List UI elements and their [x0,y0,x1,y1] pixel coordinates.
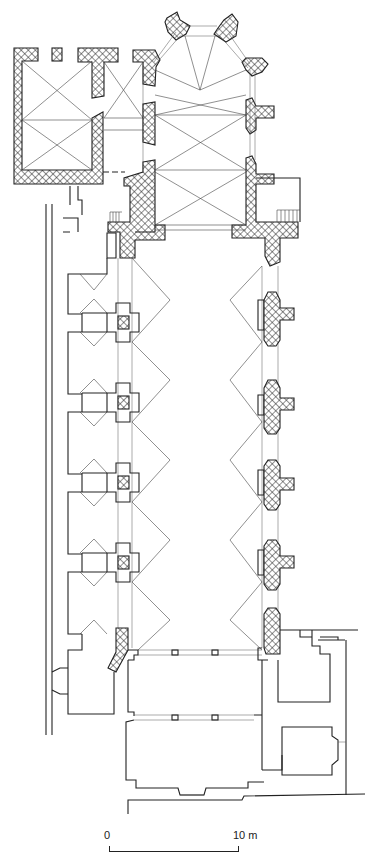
sacristy-annex [14,48,160,184]
nave [107,233,294,654]
west-rooms [126,630,365,814]
site-boundary [46,186,155,735]
north-chapels [52,258,128,714]
floor-plan [0,0,369,865]
north-piers [107,233,139,582]
scale-start-label: 0 [104,829,110,841]
scale-tick-end [238,846,239,852]
scale-tick-start [109,846,110,852]
south-piers [258,292,294,654]
scale-end-label: 10 m [233,829,257,841]
scale-line [109,851,239,852]
